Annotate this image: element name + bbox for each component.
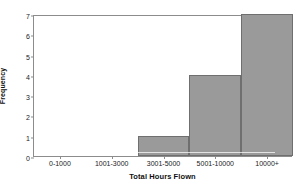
x-tick-mark — [60, 156, 61, 159]
x-axis-title: Total Hours Flown — [33, 172, 292, 181]
y-tick-label: 7 — [26, 13, 34, 20]
bar — [189, 75, 241, 156]
y-tick-label: 6 — [26, 33, 34, 40]
x-tick-mark — [215, 156, 216, 159]
y-axis-title: Frequency — [0, 68, 6, 104]
x-tick-label: 3001-5000 — [147, 160, 180, 167]
y-tick-label: 0 — [26, 155, 34, 162]
x-tick-label: 1001-3000 — [95, 160, 128, 167]
histogram-chart: 01234567 0-10001001-30003001-50005001-10… — [0, 0, 305, 189]
x-tick-mark — [267, 156, 268, 159]
y-tick-label: 1 — [26, 134, 34, 141]
bars-layer — [34, 16, 291, 156]
plot-area: 01234567 0-10001001-30003001-50005001-10… — [33, 15, 292, 157]
y-tick-label: 3 — [26, 94, 34, 101]
y-tick-label: 5 — [26, 53, 34, 60]
x-tick-label: 0-1000 — [49, 160, 71, 167]
x-tick-mark — [164, 156, 165, 159]
x-tick-label: 10000+ — [255, 160, 279, 167]
y-tick-label: 4 — [26, 73, 34, 80]
bar — [241, 14, 293, 156]
y-tick-label: 2 — [26, 114, 34, 121]
x-tick-label: 5001-10000 — [197, 160, 234, 167]
x-tick-mark — [112, 156, 113, 159]
bar — [138, 136, 190, 156]
